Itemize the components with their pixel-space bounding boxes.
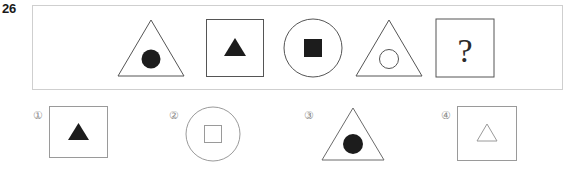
option-2-figure-circle-with-outline-square [185, 106, 241, 162]
figure-square-with-question-mark: ? [436, 18, 495, 77]
stem-cell-1 [111, 6, 191, 89]
question-mark-glyph: ? [457, 31, 472, 68]
option-2[interactable]: ② [160, 100, 290, 173]
figure-triangle-with-outline-circle [353, 17, 425, 79]
answer-options: ① ② ③ ④ [0, 100, 570, 173]
figure-square-with-filled-triangle [206, 19, 264, 77]
stem-cell-4 [349, 6, 429, 89]
stem-cell-5-answer-slot: ? [425, 6, 505, 89]
option-3[interactable]: ③ [295, 100, 425, 173]
stem-panel: ? [32, 5, 563, 90]
option-1[interactable]: ① [24, 100, 154, 173]
option-2-label: ② [167, 108, 181, 122]
option-1-label: ① [31, 108, 45, 122]
option-4[interactable]: ④ [432, 100, 562, 173]
stem-cell-3 [273, 6, 353, 89]
option-4-label: ④ [439, 108, 453, 122]
question-number: 26 [2, 2, 16, 15]
option-3-figure-triangle-with-filled-circle [320, 106, 386, 162]
figure-triangle-with-filled-circle [115, 17, 187, 79]
option-4-figure-square-with-outline-triangle [457, 106, 517, 161]
option-3-label: ③ [302, 108, 316, 122]
option-1-figure-square-with-filled-triangle [49, 106, 108, 158]
stem-cell-2 [195, 6, 275, 89]
stem-sequence: ? [33, 6, 562, 89]
figure-circle-with-filled-square [283, 18, 343, 78]
